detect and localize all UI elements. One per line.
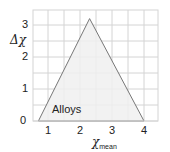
y-tick-2: 2 [22,51,28,62]
y-axis-label: Δχ [10,33,26,47]
x-axis-label-sub: mean [99,143,117,150]
x-axis-label: χmean [92,135,117,150]
x-tick-4: 4 [141,125,147,136]
y-tick-1: 1 [22,83,28,94]
region-label-alloys: Alloys [52,103,81,115]
x-tick-2: 2 [77,125,83,136]
x-tick-1: 1 [45,125,51,136]
y-tick-0: 0 [20,115,26,126]
y-tick-3: 3 [22,19,28,30]
